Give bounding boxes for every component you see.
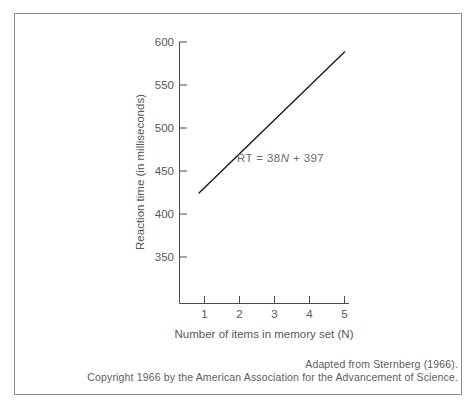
regression-line xyxy=(199,52,345,193)
y-axis-tick-labels: 600 550 500 450 400 350 xyxy=(155,36,174,263)
y-tick-label-600: 600 xyxy=(155,36,174,48)
figure-screenshot: 600 550 500 450 400 350 1 2 3 4 xyxy=(0,0,476,416)
y-tick-label-550: 550 xyxy=(155,79,174,91)
x-tick-label-4: 4 xyxy=(306,308,313,320)
x-axis-tick-labels: 1 2 3 4 5 xyxy=(201,308,347,320)
y-axis-title: Reaction time (in milliseconds) xyxy=(134,94,146,250)
y-axis-ticks xyxy=(180,42,188,257)
y-tick-label-450: 450 xyxy=(155,165,174,177)
plot-area: 600 550 500 450 400 350 1 2 3 4 xyxy=(0,0,476,416)
caption-copyright-line: Copyright 1966 by the American Associati… xyxy=(14,371,464,384)
x-tick-label-2: 2 xyxy=(236,308,242,320)
x-tick-label-5: 5 xyxy=(341,308,347,320)
y-tick-label-400: 400 xyxy=(155,208,174,220)
equation-annotation: RT = 38N + 397 xyxy=(237,152,324,164)
equation-variable: N xyxy=(281,152,290,164)
y-tick-label-500: 500 xyxy=(155,122,174,134)
x-tick-label-1: 1 xyxy=(201,308,207,320)
y-tick-label-350: 350 xyxy=(155,251,174,263)
reaction-time-line-chart: 600 550 500 450 400 350 1 2 3 4 xyxy=(0,0,476,416)
caption-source-line: Adapted from Sternberg (1966). xyxy=(14,358,466,371)
equation-suffix: + 397 xyxy=(289,152,324,164)
x-axis-title: Number of items in memory set (N) xyxy=(175,328,354,340)
equation-prefix: RT = 38 xyxy=(237,152,281,164)
x-tick-label-3: 3 xyxy=(271,308,277,320)
x-axis-ticks xyxy=(205,296,345,304)
